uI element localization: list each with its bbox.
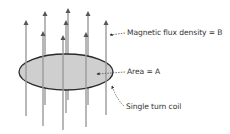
single-turn-coil [19,54,113,90]
flux-density-label: Magnetic flux density = B [127,28,222,37]
area-label: Area = A [127,67,160,76]
coil-label: Single turn coil [126,102,181,111]
magnetic-flux-diagram [0,0,230,134]
